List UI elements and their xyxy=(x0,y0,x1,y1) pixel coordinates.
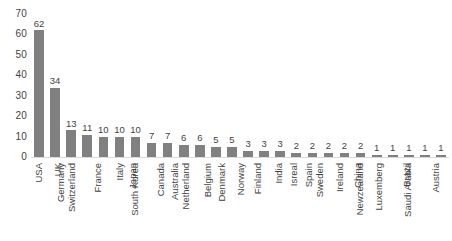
bar-chart: 010203040506070 623413111010107766553332… xyxy=(0,0,452,241)
x-axis-label: Switzerland xyxy=(67,114,77,163)
x-axis-label: Italy xyxy=(115,146,125,163)
x-axis-category-labels: USAUKGermanySwitzerlandFranceItalyJapanS… xyxy=(31,161,449,241)
x-axis-label: Norway xyxy=(236,131,246,163)
y-tick-label: 70 xyxy=(15,9,27,19)
bar-value-label: 6 xyxy=(197,133,202,143)
x-axis-label: Denmark xyxy=(217,124,227,163)
y-tick-label: 40 xyxy=(15,70,27,80)
bar-value-label: 7 xyxy=(149,131,154,141)
bar-slot: 10 xyxy=(111,14,127,157)
x-axis-label-text: Switzerland xyxy=(67,163,77,212)
x-axis-label: South Korea xyxy=(130,110,140,163)
bar xyxy=(227,147,237,157)
x-axis-label: Belgium xyxy=(203,129,213,163)
x-axis-label: Ireland xyxy=(334,134,344,163)
bar-slot: 1 xyxy=(385,14,401,157)
x-axis-label-text: Germany xyxy=(56,163,66,202)
x-label-slot: USA xyxy=(31,161,47,241)
x-axis-label-text: Australia xyxy=(170,163,180,200)
x-axis-label-text: Norway xyxy=(236,163,246,195)
bar-value-label: 1 xyxy=(422,143,427,153)
bar-value-label: 5 xyxy=(229,135,234,145)
x-label-slot: Ireland xyxy=(336,161,352,241)
x-axis-label-text: Denmark xyxy=(217,163,227,202)
x-axis-label: Austria xyxy=(431,133,441,163)
bar xyxy=(324,153,334,157)
x-axis-label-text: Canada xyxy=(156,163,166,196)
x-label-slot: Austria xyxy=(433,161,449,241)
y-tick-label: 0 xyxy=(21,152,27,162)
x-axis-label-text: France xyxy=(93,163,103,193)
y-tick-label: 10 xyxy=(15,132,27,142)
x-label-slot: Luxemberg xyxy=(385,161,401,241)
y-tick-label: 60 xyxy=(15,29,27,39)
x-axis-label: Germany xyxy=(56,124,66,163)
x-axis-label-text: Finland xyxy=(253,163,263,194)
x-axis-label: Saudi Arabia xyxy=(402,109,412,163)
x-axis-label: Sweden xyxy=(316,129,326,163)
x-axis-label-text: Luxemberg xyxy=(373,163,383,211)
x-axis-label-text: Saudi Arabia xyxy=(402,163,412,217)
y-axis: 010203040506070 xyxy=(0,0,30,161)
x-axis-label-text: Spain xyxy=(305,163,315,187)
x-axis-label-text: USA xyxy=(34,163,44,183)
x-axis-label: Newzealand xyxy=(355,111,365,163)
y-tick-label: 30 xyxy=(15,91,27,101)
x-axis-label: Isreal xyxy=(289,140,299,163)
x-label-slot: Finland xyxy=(256,161,272,241)
x-axis-label-text: Sweden xyxy=(316,163,326,197)
x-axis-label-text: India xyxy=(274,163,284,184)
bar-value-label: 2 xyxy=(326,141,331,151)
bar-slot: 62 xyxy=(31,14,47,157)
bar-value-label: 34 xyxy=(50,76,61,86)
x-axis-label: Spain xyxy=(305,139,315,163)
bar-value-label: 1 xyxy=(390,143,395,153)
x-axis-label-text: Belgium xyxy=(203,163,213,197)
y-tick-label: 50 xyxy=(15,50,27,60)
bar-slot: 3 xyxy=(272,14,288,157)
x-axis-label: USA xyxy=(34,143,44,163)
x-axis-label: Netherland xyxy=(181,117,191,163)
bar xyxy=(34,30,44,157)
x-label-slot: India xyxy=(272,161,288,241)
bar-value-label: 3 xyxy=(245,139,250,149)
x-axis-label: Luxemberg xyxy=(373,115,383,163)
bar xyxy=(420,155,430,157)
bar-value-label: 11 xyxy=(82,123,92,133)
x-label-slot: Italy xyxy=(111,161,127,241)
bar-value-label: 10 xyxy=(114,125,125,135)
x-axis-label: Canada xyxy=(156,130,166,163)
x-axis-label-text: Newzealand xyxy=(355,163,365,215)
bar xyxy=(82,135,92,157)
x-axis-label: Finland xyxy=(253,132,263,163)
x-axis-label-text: South Korea xyxy=(130,163,140,216)
bar-slot: 2 xyxy=(288,14,304,157)
x-axis-label-text: Italy xyxy=(115,163,125,180)
x-axis-label-text: Austria xyxy=(431,163,441,193)
x-label-slot: Isreal xyxy=(288,161,304,241)
x-label-slot: France xyxy=(95,161,111,241)
x-axis-label-text: Netherland xyxy=(181,163,191,209)
x-axis-label-text: Ireland xyxy=(334,163,344,192)
x-axis-label: India xyxy=(274,142,284,163)
y-tick-label: 20 xyxy=(15,111,27,121)
bar-value-label: 62 xyxy=(34,19,45,29)
x-axis-label: France xyxy=(93,133,103,163)
bar xyxy=(388,155,398,157)
x-axis-label-text: Isreal xyxy=(289,163,299,186)
x-axis-label: Australia xyxy=(170,126,180,163)
